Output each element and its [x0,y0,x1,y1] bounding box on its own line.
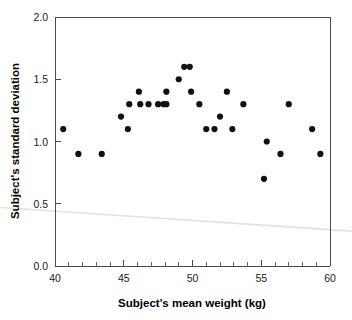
data-point [163,101,169,107]
data-point [203,126,209,132]
data-point [145,101,151,107]
data-point [217,114,223,120]
y-tick-label: 2.0 [33,11,48,23]
data-point [136,89,142,95]
x-tick-label: 50 [187,272,199,284]
data-point [187,64,193,70]
x-tick-label: 60 [324,272,336,284]
data-point [176,76,182,82]
data-point [277,151,283,157]
y-axis-title: Subject's standard deviation [9,63,21,219]
y-tick-label: 0.0 [33,260,48,272]
data-point [240,101,246,107]
data-point [60,126,66,132]
data-point [286,101,292,107]
data-point [181,64,187,70]
data-point [125,126,131,132]
data-point [118,114,124,120]
x-tick-label: 40 [49,272,61,284]
data-point [196,101,202,107]
data-point [126,101,132,107]
x-tick-label: 55 [255,272,267,284]
y-tick-label: 0.5 [33,198,48,210]
y-tick-label: 1.0 [33,136,48,148]
x-axis-title: Subject's mean weight (kg) [118,297,266,309]
data-point [309,126,315,132]
data-point [261,176,267,182]
data-point [264,138,270,144]
x-tick-label: 45 [118,272,130,284]
data-point [155,101,161,107]
scatter-chart: 4045505560 0.00.51.01.52.0 Subject's mea… [0,0,352,320]
y-tick-label: 1.5 [33,73,48,85]
data-point [224,89,230,95]
data-point [229,126,235,132]
data-point [75,151,81,157]
data-point [188,89,194,95]
data-point [137,101,143,107]
data-point [99,151,105,157]
data-point [163,89,169,95]
data-point [211,126,217,132]
data-point [317,151,323,157]
